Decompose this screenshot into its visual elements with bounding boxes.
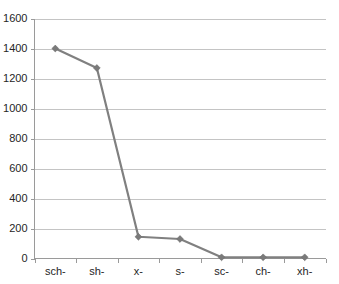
y-axis-tick-label: 600 [9,162,27,174]
y-axis-tick-label: 1400 [3,42,27,54]
x-axis-tick-label: x- [134,265,144,277]
chart-canvas: 02004006008001000120014001600 sch-sh-x-s… [0,0,339,284]
y-axis-tick-label: 1600 [3,12,27,24]
x-axis-tick-label: sh- [89,265,105,277]
y-axis-tick-label: 400 [9,192,27,204]
plot-background [0,0,339,284]
x-axis-tick-label: s- [175,265,185,277]
y-axis-tick-label: 200 [9,222,27,234]
y-axis-tick-label: 1200 [3,72,27,84]
x-axis-tick-label: ch- [256,265,272,277]
x-axis-tick-label: xh- [297,265,313,277]
y-axis-tick-label: 0 [21,252,27,264]
x-axis-tick-label: sc- [214,265,229,277]
line-chart: 02004006008001000120014001600 sch-sh-x-s… [0,0,339,284]
y-axis-tick-label: 800 [9,132,27,144]
y-axis-tick-label: 1000 [3,102,27,114]
x-axis-tick-label: sch- [45,265,66,277]
